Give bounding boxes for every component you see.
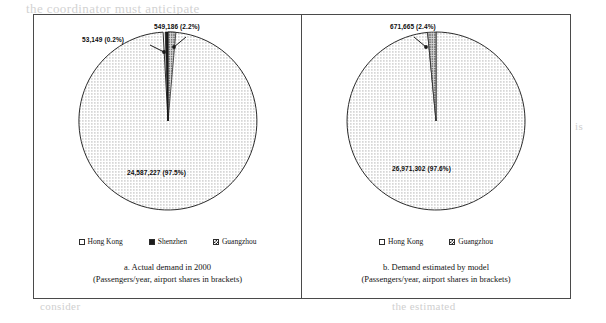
- legend-item-hong-kong: Hong Kong: [79, 237, 123, 246]
- guangzhou-callout-label: 671,665 (2.4%): [390, 23, 436, 30]
- hong-kong-inner-label: 26,971,302 (97.6%): [392, 165, 451, 172]
- leader-dot-guangzhou: [172, 45, 176, 49]
- legend-item-shenzhen: Shenzhen: [149, 237, 187, 246]
- page-bleed-right: is: [575, 120, 583, 132]
- pie-svg-model: [302, 15, 570, 233]
- pie-chart-actual: [34, 15, 301, 233]
- legend-model: Hong Kong Guangzhou: [302, 237, 570, 246]
- legend-label-guangzhou: Guangzhou: [458, 237, 493, 246]
- legend-item-guangzhou: Guangzhou: [213, 237, 257, 246]
- leader-dot-guangzhou: [424, 45, 428, 49]
- legend-swatch-hong-kong-icon: [379, 239, 385, 245]
- legend-swatch-guangzhou-icon: [449, 239, 455, 245]
- pie-svg-actual: [34, 15, 302, 233]
- caption-actual: a. Actual demand in 2000 (Passengers/yea…: [34, 261, 301, 285]
- legend-label-hong-kong: Hong Kong: [88, 237, 123, 246]
- shenzhen-callout-label: 53,149 (0.2%): [82, 36, 124, 43]
- caption-line1-actual: a. Actual demand in 2000: [124, 262, 211, 272]
- legend-label-guangzhou: Guangzhou: [222, 237, 257, 246]
- leader-dot-shenzhen: [162, 50, 166, 54]
- caption-model: b. Demand estimated by model (Passengers…: [302, 261, 570, 285]
- panel-container: 549,186 (2.2%) 53,149 (0.2%) 24,587,227 …: [34, 15, 570, 298]
- panel-actual-demand: 549,186 (2.2%) 53,149 (0.2%) 24,587,227 …: [34, 15, 302, 298]
- legend-swatch-hong-kong-icon: [79, 239, 85, 245]
- legend-swatch-shenzhen-icon: [149, 239, 155, 245]
- pie-chart-model: [302, 15, 570, 233]
- panel-model-demand: 671,665 (2.4%) 26,971,302 (97.6%) Hong K…: [302, 15, 570, 298]
- page-bleed-bottom-left: consider: [40, 300, 80, 312]
- legend-label-shenzhen: Shenzhen: [158, 237, 187, 246]
- legend-item-hong-kong: Hong Kong: [379, 237, 423, 246]
- page-bleed-bottom-right: the estimated: [392, 300, 456, 312]
- caption-line2-actual: (Passengers/year, airport shares in brac…: [34, 273, 301, 285]
- legend-label-hong-kong: Hong Kong: [388, 237, 423, 246]
- legend-item-guangzhou: Guangzhou: [449, 237, 493, 246]
- legend-actual: Hong Kong Shenzhen Guangzhou: [34, 237, 301, 246]
- legend-swatch-guangzhou-icon: [213, 239, 219, 245]
- figure-frame: 549,186 (2.2%) 53,149 (0.2%) 24,587,227 …: [33, 14, 571, 299]
- caption-line2-model: (Passengers/year, airport shares in brac…: [302, 273, 570, 285]
- caption-line1-model: b. Demand estimated by model: [383, 262, 489, 272]
- guangzhou-callout-label: 549,186 (2.2%): [154, 23, 200, 30]
- hong-kong-inner-label: 24,587,227 (97.5%): [127, 169, 186, 176]
